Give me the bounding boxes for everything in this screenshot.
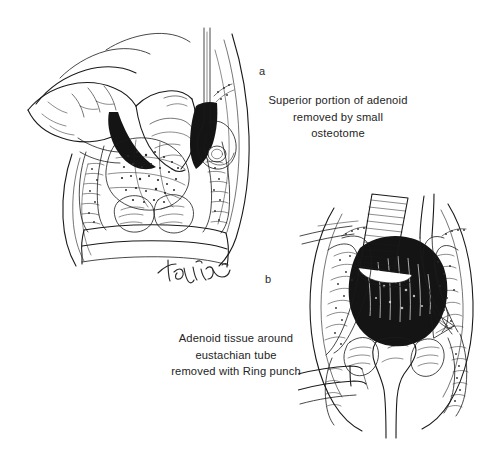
illustration-page: a Superior portion of adenoid removed by… [0, 0, 495, 454]
surgeon-hand [28, 33, 196, 171]
panel-label-b: b [265, 274, 271, 285]
panel-caption-b: Adenoid tissue around eustachian tube re… [160, 330, 312, 380]
facial-contour-left [63, 154, 91, 266]
panel-caption-a: Superior portion of adenoid removed by s… [262, 92, 414, 142]
lower-pharyngeal-wall-right [444, 334, 468, 416]
adenoidectomy-ring-punch-illustration [298, 190, 488, 440]
mucosal-fringe [214, 84, 234, 102]
upper-retractor-blades [300, 221, 358, 244]
nasopharyngeal-shadow-left [108, 112, 156, 169]
adenoidectomy-osteotome-illustration [18, 6, 266, 278]
uvula-soft-palate [373, 337, 416, 438]
artist-signature [156, 256, 236, 286]
panel-label-a: a [259, 66, 265, 77]
